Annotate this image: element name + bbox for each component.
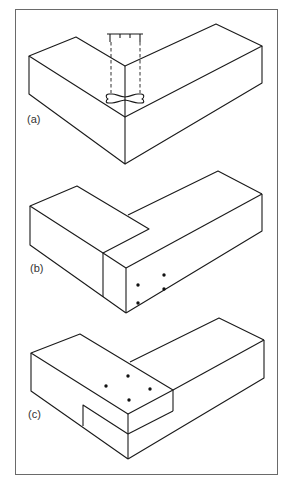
pin-dot: [148, 387, 151, 390]
panel-b-lap-joint: (b): [30, 171, 262, 313]
pin-dot: [127, 398, 130, 401]
pin-dot: [162, 273, 165, 276]
joint-diagram: (a) (b): [0, 0, 291, 488]
pin-dot: [136, 301, 139, 304]
panel-a-label: (a): [27, 113, 40, 125]
pin-dot: [136, 283, 139, 286]
pin-dot: [162, 287, 165, 290]
panel-c-label: (c): [28, 408, 41, 420]
pin-dot: [104, 384, 107, 387]
panel-b-label: (b): [30, 262, 43, 274]
pin-dot: [126, 374, 129, 377]
panel-c-lap-joint: (c): [28, 318, 264, 459]
panel-a-mitre-joint: (a): [27, 24, 262, 164]
